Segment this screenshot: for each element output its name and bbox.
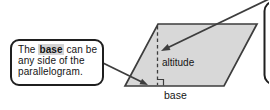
parallelogram-shape — [125, 24, 257, 86]
base-label: base — [164, 90, 187, 100]
parallelogram-diagram: The base can be any side of the parallel… — [0, 0, 269, 110]
callout-text-line2: any side of the — [18, 55, 85, 66]
callout-text-line3: parallelogram. — [18, 66, 83, 77]
callout-text-line1: The base can be — [18, 44, 97, 55]
callout-line1-post: can be — [64, 44, 98, 55]
altitude-label: altitude — [162, 58, 194, 68]
right-callout-box-partial — [265, 2, 270, 84]
base-definition-callout: The base can be any side of the parallel… — [10, 39, 104, 86]
callout-base-term-highlight: base — [38, 44, 63, 55]
callout-line1-pre: The — [18, 44, 38, 55]
